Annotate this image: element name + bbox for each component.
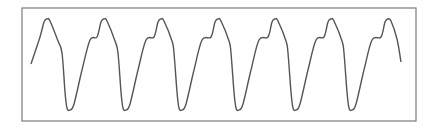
- waveform-line: [31, 19, 401, 111]
- waveform-chart: [0, 0, 434, 128]
- plot-frame: [22, 8, 416, 121]
